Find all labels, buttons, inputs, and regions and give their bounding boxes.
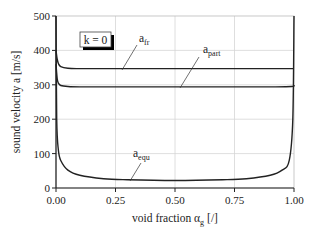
y-tick-label: 500 [34,10,51,22]
y-ticks: 0100200300400500 [34,10,57,194]
x-tick-label: 0.50 [165,194,185,206]
x-tick-label: 0.00 [46,194,66,206]
x-axis-label: void fraction αg[/] [132,212,218,227]
x-tick-label: 0.25 [106,194,126,206]
k-value-label: k = 0 [84,34,108,46]
y-tick-label: 200 [34,113,51,125]
y-tick-label: 0 [45,182,51,194]
chart: 0100200300400500 0.000.250.500.751.00 af… [0,0,314,242]
y-tick-label: 300 [34,79,51,91]
x-tick-label: 1.00 [284,194,304,206]
y-axis-label: sound velocity a [m/s] [10,51,23,154]
x-tick-label: 0.75 [225,194,245,206]
y-tick-label: 400 [34,44,51,56]
y-tick-label: 100 [34,148,51,160]
x-ticks: 0.000.250.500.751.00 [46,188,304,206]
